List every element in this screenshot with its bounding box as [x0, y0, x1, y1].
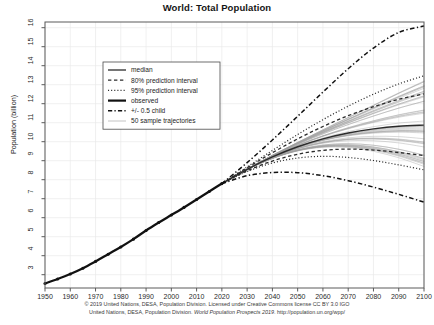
legend-item-label: observed: [131, 97, 158, 104]
chart-legend: median80% prediction interval95% predict…: [103, 62, 220, 129]
x-tick-label: 1990: [132, 293, 160, 300]
x-tick-label: 2020: [208, 293, 236, 300]
axis-ticks: [42, 28, 425, 292]
y-tick-label: 10: [27, 132, 34, 150]
x-tick-label: 2030: [233, 293, 261, 300]
y-tick-label: 14: [27, 56, 34, 74]
caption-line-2: United Nations, DESA, Population Divisio…: [0, 308, 434, 316]
y-tick-label: 15: [27, 37, 34, 55]
y-tick-label: 9: [27, 151, 34, 169]
x-tick-label: 2100: [410, 293, 434, 300]
y-tick-label: 12: [27, 94, 34, 112]
legend-item-label: +/- 0.5 child: [131, 107, 166, 114]
legend-item-label: 50 sample trajectories: [131, 117, 196, 125]
x-tick-label: 2060: [309, 293, 337, 300]
x-tick-label: 1950: [31, 293, 59, 300]
x-tick-label: 2090: [385, 293, 413, 300]
x-tick-label: 2070: [334, 293, 362, 300]
x-tick-label: 2080: [359, 293, 387, 300]
x-tick-label: 2010: [183, 293, 211, 300]
x-tick-label: 1980: [107, 293, 135, 300]
x-tick-label: 2000: [157, 293, 185, 300]
caption-url: . http://population.un.org/wpp/: [274, 309, 345, 315]
legend-item-label: 95% prediction interval: [131, 87, 198, 95]
chart-caption: © 2019 United Nations, DESA, Population …: [0, 300, 434, 316]
caption-source: United Nations, DESA, Population Divisio…: [89, 309, 194, 315]
plot-area: median80% prediction interval95% predict…: [0, 0, 434, 325]
y-tick-label: 5: [27, 227, 34, 245]
caption-publication: World Population Prospects 2019: [194, 309, 274, 315]
y-tick-label: 4: [27, 246, 34, 264]
caption-line-1: © 2019 United Nations, DESA, Population …: [0, 300, 434, 308]
x-tick-label: 1960: [56, 293, 84, 300]
x-tick-label: 1970: [82, 293, 110, 300]
y-tick-label: 13: [27, 75, 34, 93]
data-series: [43, 26, 424, 285]
y-axis-title: Population (billion): [9, 60, 18, 190]
y-tick-label: 16: [27, 18, 34, 36]
x-tick-label: 2040: [258, 293, 286, 300]
y-tick-label: 3: [27, 265, 34, 283]
y-tick-label: 6: [27, 208, 34, 226]
plot-frame: [45, 22, 424, 288]
chart-title: World: Total Population: [0, 2, 434, 13]
y-tick-label: 11: [27, 113, 34, 131]
y-tick-label: 8: [27, 170, 34, 188]
x-tick-label: 2050: [284, 293, 312, 300]
grid-lines: [45, 22, 424, 288]
legend-item-label: 80% prediction interval: [131, 77, 198, 85]
y-tick-label: 7: [27, 189, 34, 207]
chart-figure: World: Total Population Population (bill…: [0, 0, 434, 325]
legend-item-label: median: [131, 66, 153, 73]
